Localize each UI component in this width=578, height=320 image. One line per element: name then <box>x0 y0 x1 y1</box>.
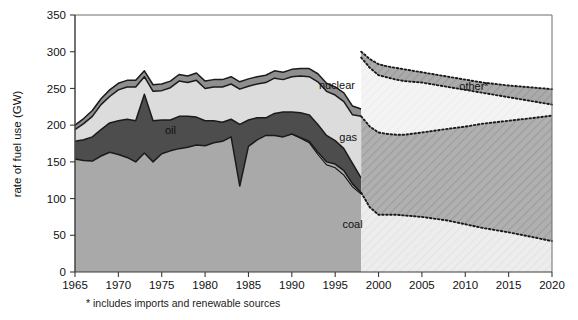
y-axis-title: rate of fuel use (GW) <box>11 90 23 197</box>
fuel-use-area-chart: 0501001502002503003501965197019751980198… <box>0 0 578 320</box>
y-tick-label: 300 <box>47 46 66 58</box>
chart-canvas: 0501001502002503003501965197019751980198… <box>0 0 578 320</box>
x-tick-label: 2005 <box>409 279 435 291</box>
x-tick-label: 1990 <box>279 279 305 291</box>
y-tick-label: 50 <box>53 229 66 241</box>
series-label-oil: oil <box>165 124 176 136</box>
x-tick-label: 1985 <box>236 279 262 291</box>
series-label-coal: coal <box>342 218 362 230</box>
x-tick-label: 2020 <box>539 279 565 291</box>
x-tick-label: 2015 <box>496 279 522 291</box>
y-tick-label: 250 <box>47 83 66 95</box>
x-tick-label: 1980 <box>192 279 218 291</box>
y-tick-label: 150 <box>47 156 66 168</box>
x-tick-label: 1995 <box>322 279 348 291</box>
y-tick-label: 350 <box>47 9 66 21</box>
series-label-other: other* <box>459 80 489 92</box>
series-label-gas: gas <box>339 131 357 143</box>
x-tick-label: 1970 <box>106 279 132 291</box>
y-tick-label: 100 <box>47 193 66 205</box>
chart-footnote: * includes imports and renewable sources <box>86 297 280 309</box>
x-tick-label: 2010 <box>452 279 478 291</box>
y-tick-label: 200 <box>47 119 66 131</box>
y-tick-label: 0 <box>60 266 66 278</box>
x-tick-label: 1975 <box>149 279 175 291</box>
series-label-nuclear: nuclear <box>319 79 355 91</box>
x-tick-label: 2000 <box>366 279 392 291</box>
x-tick-label: 1965 <box>62 279 88 291</box>
